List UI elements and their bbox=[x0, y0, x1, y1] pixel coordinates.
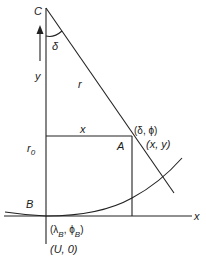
arrow-up-icon bbox=[37, 25, 44, 34]
radius-label: r bbox=[78, 78, 83, 90]
point-a-cartesian-coords: (x, y) bbox=[146, 138, 171, 150]
point-c-label: C bbox=[34, 5, 42, 17]
diagram-canvas: C δ y r x r0 A (δ, ϕ) (x, y) B x (λB, ϕB… bbox=[0, 0, 206, 260]
angle-delta-label: δ bbox=[52, 40, 59, 52]
point-b-cartesian-coords: (U, 0) bbox=[50, 243, 78, 255]
point-b-polar-coords: (λB, ϕB) bbox=[50, 224, 84, 239]
point-b-label: B bbox=[26, 198, 33, 210]
x-axis-label: x bbox=[193, 210, 200, 222]
point-a-label: A bbox=[116, 140, 124, 152]
radius-line bbox=[46, 8, 174, 193]
y-axis-label: y bbox=[34, 70, 42, 82]
point-a-polar-coords: (δ, ϕ) bbox=[134, 125, 157, 136]
x-segment-label: x bbox=[79, 123, 86, 135]
r0-label: r0 bbox=[27, 142, 36, 157]
angle-delta-arc bbox=[46, 31, 62, 36]
